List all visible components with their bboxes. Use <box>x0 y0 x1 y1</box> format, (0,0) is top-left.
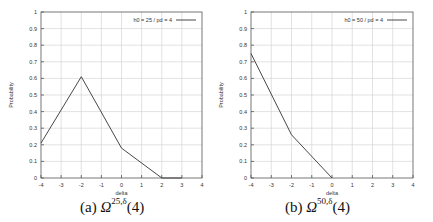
caption-b-symbol: Ω <box>306 199 317 215</box>
x-tick-label: -4 <box>39 182 44 188</box>
y-tick-label: 0.9 <box>239 26 247 32</box>
chart-panel-b: -4-3-2-10123400.10.20.30.40.50.60.70.80.… <box>210 0 433 222</box>
line-chart-b: -4-3-2-10123400.10.20.30.40.50.60.70.80.… <box>210 0 433 195</box>
x-tick-label: 4 <box>200 182 203 188</box>
y-axis-label: Probability <box>8 82 14 108</box>
series-line <box>41 77 182 178</box>
y-tick-label: 0 <box>244 175 247 181</box>
caption-a: (a) Ω25,δ(4) <box>80 198 144 216</box>
y-tick-label: 0.1 <box>239 158 247 164</box>
y-tick-label: 1 <box>244 9 247 15</box>
x-tick-label: 0 <box>120 182 123 188</box>
y-tick-label: 0.2 <box>29 142 37 148</box>
caption-b-arg: (4) <box>333 199 351 215</box>
legend-label: h0 = 25 / pd = 4 <box>133 17 172 23</box>
x-tick-label: 4 <box>411 182 414 188</box>
x-axis-label: delta <box>116 190 129 195</box>
x-tick-label: -2 <box>79 182 84 188</box>
x-tick-label: 2 <box>371 182 374 188</box>
y-tick-label: 0 <box>34 175 37 181</box>
y-tick-label: 0.5 <box>29 92 37 98</box>
y-axis-label: Probability <box>218 82 224 108</box>
caption-b-sup: 50,δ <box>317 196 333 206</box>
y-tick-label: 0.4 <box>239 109 247 115</box>
y-tick-label: 0.8 <box>29 42 37 48</box>
y-tick-label: 0.3 <box>239 125 247 131</box>
x-tick-label: 3 <box>180 182 183 188</box>
y-tick-label: 0.8 <box>239 42 247 48</box>
x-tick-label: -4 <box>249 182 254 188</box>
x-tick-label: -3 <box>269 182 274 188</box>
y-tick-label: 0.6 <box>29 75 37 81</box>
y-tick-label: 0.7 <box>29 59 37 65</box>
y-tick-label: 0.7 <box>239 59 247 65</box>
x-tick-label: 1 <box>351 182 354 188</box>
x-tick-label: -1 <box>309 182 314 188</box>
y-tick-label: 0.9 <box>29 26 37 32</box>
caption-a-symbol: Ω <box>100 199 111 215</box>
chart-panel-a: -4-3-2-10123400.10.20.30.40.50.60.70.80.… <box>0 0 216 222</box>
line-chart-a: -4-3-2-10123400.10.20.30.40.50.60.70.80.… <box>0 0 216 195</box>
x-tick-label: 0 <box>330 182 333 188</box>
x-tick-label: 1 <box>140 182 143 188</box>
caption-a-sup: 25,δ <box>111 196 127 206</box>
x-tick-label: 3 <box>391 182 394 188</box>
legend-label: h0 = 50 / pd = 4 <box>344 17 383 23</box>
x-tick-label: 2 <box>160 182 163 188</box>
x-tick-label: -2 <box>289 182 294 188</box>
y-tick-label: 0.4 <box>29 109 37 115</box>
y-tick-label: 1 <box>34 9 37 15</box>
y-tick-label: 0.6 <box>239 75 247 81</box>
x-tick-label: -1 <box>99 182 104 188</box>
y-tick-label: 0.1 <box>29 158 37 164</box>
x-tick-label: -3 <box>59 182 64 188</box>
x-axis-label: delta <box>326 190 339 195</box>
caption-b-label: (b) <box>285 199 303 215</box>
y-tick-label: 0.2 <box>239 142 247 148</box>
caption-a-arg: (4) <box>127 199 145 215</box>
y-tick-label: 0.3 <box>29 125 37 131</box>
y-tick-label: 0.5 <box>239 92 247 98</box>
caption-a-label: (a) <box>80 199 97 215</box>
caption-b: (b) Ω50,δ(4) <box>285 198 350 216</box>
